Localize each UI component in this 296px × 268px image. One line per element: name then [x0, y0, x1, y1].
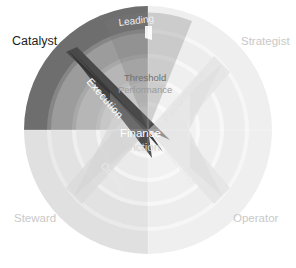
quadrant-label-catalyst: Catalyst [12, 34, 58, 48]
center-threshold-label: Threshold [124, 72, 166, 83]
center-finance-label: Finance [120, 127, 161, 139]
finance-function-diagram: Catalyst Strategist Steward Operator Lea… [0, 0, 296, 268]
quadrant-label-strategist: Strategist [241, 35, 290, 47]
quadrant-label-operator: Operator [233, 212, 279, 224]
center-function-label: Function [116, 141, 160, 153]
diagram-canvas: Catalyst Strategist Steward Operator Lea… [0, 0, 296, 268]
quadrant-label-steward: Steward [14, 212, 56, 224]
center-performance-label: Performance [118, 84, 172, 95]
